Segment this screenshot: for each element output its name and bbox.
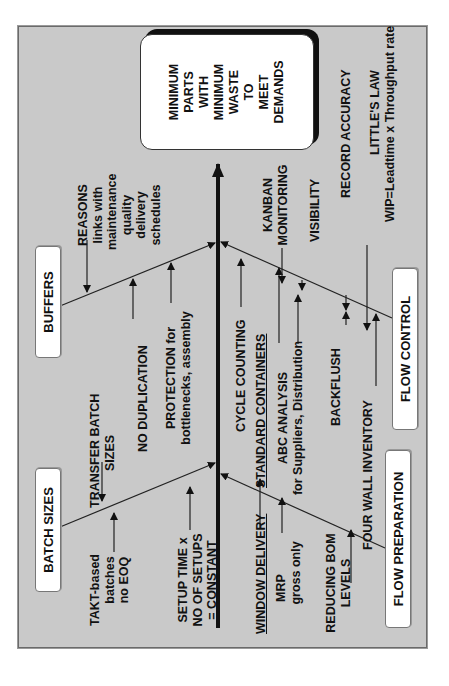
effect-line: WASTE [227, 70, 242, 114]
cause-record-accuracy: RECORD ACCURACY [339, 69, 354, 198]
effect-line: WITH [197, 76, 212, 108]
effect-line: MINIMUM [212, 64, 227, 120]
cause-takt: TAKT-based batches no EOQ [88, 550, 132, 630]
bone-batch-sizes [60, 463, 215, 527]
cause-littles-law: LITTLE'S LAW WIP=Leadtime x Throughput r… [368, 26, 397, 180]
cause-four-wall-inventory: FOUR WALL INVENTORY [361, 400, 376, 550]
cause-transfer-batch: TRANSFER BATCH SIZES [88, 398, 117, 508]
category-flow-preparation: FLOW PREPARATION [385, 450, 411, 628]
cause-no-duplication: NO DUPLICATION [136, 345, 151, 452]
effect-line: MINIMUM [167, 64, 182, 120]
cause-mrp: MRP gross only [274, 528, 303, 628]
fishbone-diagram: MINIMUM PARTS WITH MINIMUM WASTE TO MEET… [18, 26, 427, 648]
cause-visibility: VISIBILITY [308, 179, 323, 242]
category-batch-sizes: BATCH SIZES [35, 468, 61, 592]
category-flow-control: FLOW CONTROL [392, 268, 418, 430]
effect-line: MEET [257, 75, 272, 110]
cause-protection: PROTECTION for bottlenecks, assembly [164, 303, 193, 453]
cause-reasons: REASONS links with maintenance quality d… [76, 180, 163, 250]
cause-standard-containers: STANDARD CONTAINERS [254, 334, 269, 488]
effect-line: PARTS [182, 71, 197, 112]
effect-line: DEMANDS [272, 60, 287, 123]
bone-flow-control [221, 242, 392, 318]
cause-backflush: BACKFLUSH [329, 348, 344, 426]
cause-setup-time: SETUP TIME x NO OF SETUPS = CONSTANT [176, 530, 220, 630]
cause-kanban-monitoring: KANBAN MONITORING [261, 160, 290, 250]
category-buffers: BUFFERS [35, 246, 61, 358]
cause-abc-analysis: ABC ANALYSIS for Suppliers, Distribution [276, 338, 305, 498]
cause-cycle-counting: CYCLE COUNTING [234, 320, 249, 433]
cause-window-delivery: WINDOW DELIVERY [254, 514, 269, 634]
cause-reducing-bom: REDUCING BOM LEVELS [324, 528, 353, 638]
bone-buffers [60, 243, 215, 306]
effect-box: MINIMUM PARTS WITH MINIMUM WASTE TO MEET… [140, 34, 314, 150]
effect-line: TO [242, 83, 257, 100]
